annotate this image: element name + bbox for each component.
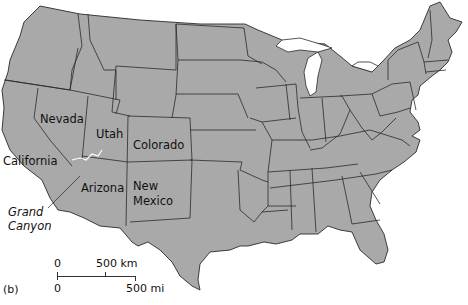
scale-bar-tick-start <box>57 272 58 280</box>
label-new-mexico-line2: Mexico <box>133 195 173 208</box>
scale-km-start: 0 <box>54 257 61 270</box>
us-map <box>0 0 468 305</box>
scale-km-end: 500 km <box>96 257 138 270</box>
label-utah: Utah <box>96 128 123 141</box>
scale-bar-line <box>57 276 136 277</box>
label-grand-canyon-line1: Grand <box>8 206 43 219</box>
label-grand-canyon-line2: Canyon <box>8 220 52 233</box>
lake-superior <box>276 38 332 52</box>
label-california: California <box>3 155 58 168</box>
scale-bar-tick-km <box>105 272 106 277</box>
scale-mi-end: 500 mi <box>126 282 164 295</box>
scale-bar-tick-end <box>135 276 136 281</box>
label-arizona: Arizona <box>81 182 124 195</box>
scale-mi-start: 0 <box>54 282 61 295</box>
label-colorado: Colorado <box>133 139 184 152</box>
us-landmass <box>2 2 462 290</box>
panel-label: (b) <box>3 283 19 296</box>
label-nevada: Nevada <box>40 113 84 126</box>
label-new-mexico-line1: New <box>133 180 158 193</box>
